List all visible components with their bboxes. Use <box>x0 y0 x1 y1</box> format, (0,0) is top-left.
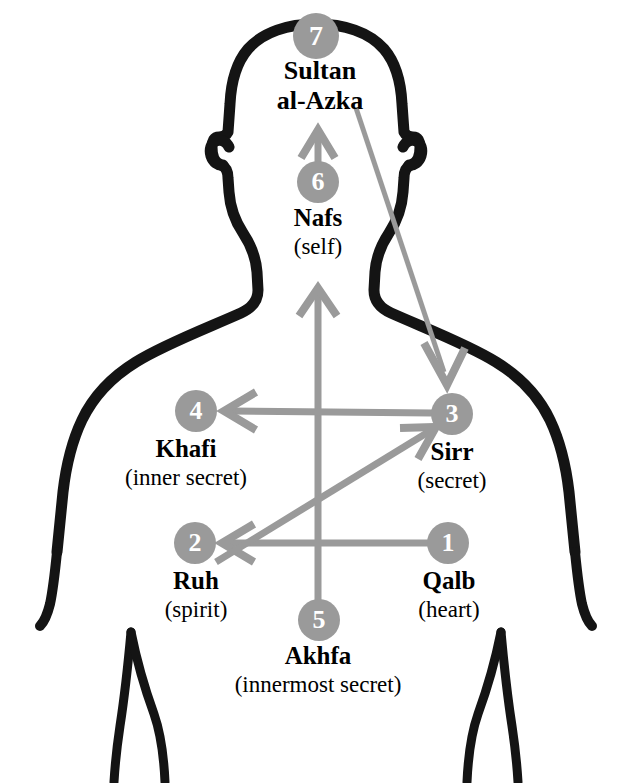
label-nafs: Nafs (self) <box>294 203 343 260</box>
label-akhfa: Akhfa (innermost secret) <box>235 641 402 698</box>
latifa-name-khafi: Khafi <box>125 434 247 464</box>
label-qalb: Qalb (heart) <box>418 566 479 623</box>
latifa-name-sirr: Sirr <box>418 437 487 467</box>
label-khafi: Khafi (inner secret) <box>125 434 247 491</box>
latifa-meaning-sirr: (secret) <box>418 467 487 494</box>
latifa-meaning-nafs: (self) <box>294 233 343 260</box>
badge-1-qalb[interactable]: 1 <box>427 522 469 564</box>
label-sirr: Sirr (secret) <box>418 437 487 494</box>
badge-5-akhfa[interactable]: 5 <box>298 599 340 641</box>
latifa-meaning-khafi: (inner secret) <box>125 464 247 491</box>
labels-layer: 7 Sultan al-Azka 6 Nafs (self) 4 Khafi (… <box>0 0 629 783</box>
label-sultan-al-azka: Sultan al-Azka <box>277 56 364 116</box>
badge-3-sirr[interactable]: 3 <box>431 393 473 435</box>
latifa-name-akhfa: Akhfa <box>235 641 402 671</box>
latifa-name-ruh: Ruh <box>165 566 228 596</box>
latifa-meaning-qalb: (heart) <box>418 596 479 623</box>
badge-4-khafi[interactable]: 4 <box>175 390 217 432</box>
badge-2-ruh[interactable]: 2 <box>174 522 216 564</box>
latifa-name-sultan-line1: Sultan <box>277 56 364 86</box>
latifa-name-sultan-line2: al-Azka <box>277 86 364 116</box>
latifa-name-nafs: Nafs <box>294 203 343 233</box>
latifa-meaning-akhfa: (innermost secret) <box>235 671 402 698</box>
label-ruh: Ruh (spirit) <box>165 566 228 623</box>
latifa-name-qalb: Qalb <box>418 566 479 596</box>
badge-6-nafs[interactable]: 6 <box>297 161 339 203</box>
latifa-meaning-ruh: (spirit) <box>165 596 228 623</box>
diagram-root: 7 Sultan al-Azka 6 Nafs (self) 4 Khafi (… <box>0 0 629 783</box>
badge-7-sultan-al-azka[interactable]: 7 <box>293 13 339 59</box>
